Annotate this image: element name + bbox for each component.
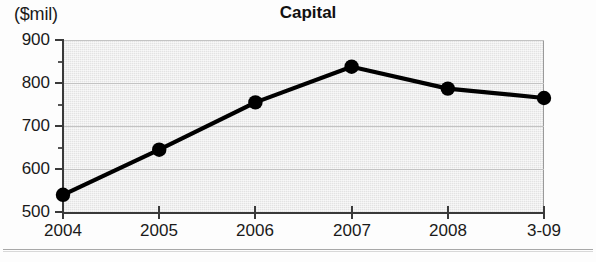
data-point-marker: 3-09: 765 <box>537 91 551 105</box>
chart-canvas: ($mil) Capital 500600700800900 200420052… <box>0 0 596 262</box>
data-point-marker: 2004: 540 <box>56 188 70 202</box>
data-point-marker: 2006: 755 <box>248 95 262 109</box>
plot-wrapper: 500600700800900 200420052006200720083-09… <box>0 0 596 262</box>
data-point-marker: 2007: 838 <box>344 59 358 73</box>
data-point-marker: 2008: 787 <box>441 81 455 95</box>
series-line-capital <box>63 67 544 195</box>
footer-divider <box>3 249 593 250</box>
data-series-capital: 2004: 5402005: 6452006: 7552007: 8382008… <box>0 0 596 262</box>
data-point-marker: 2005: 645 <box>152 143 166 157</box>
footer-divider-shadow <box>3 251 593 252</box>
